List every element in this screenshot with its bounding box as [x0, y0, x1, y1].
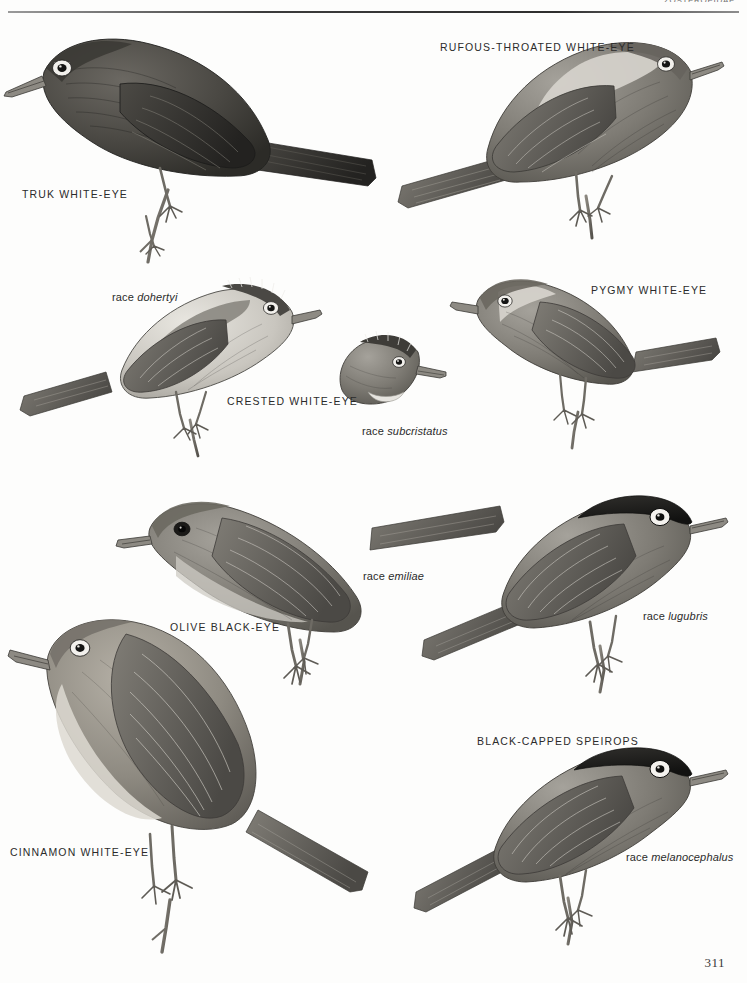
race-prefix: race	[362, 425, 387, 437]
label-pygmy-white-eye: PYGMY WHITE-EYE	[591, 284, 707, 296]
race-name: subcristatus	[387, 425, 448, 437]
race-prefix: race	[626, 851, 651, 863]
label-black-capped-speirops: BLACK-CAPPED SPEIROPS	[477, 735, 639, 747]
race-prefix: race	[363, 570, 388, 582]
bird-rufous-throated-white-eye	[398, 43, 724, 238]
race-name: melanocephalus	[651, 851, 733, 863]
race-prefix: race	[643, 610, 668, 622]
label-olive-black-eye: OLIVE BLACK-EYE	[170, 621, 280, 633]
race-prefix: race	[112, 291, 137, 303]
label-race-dohertyi: race dohertyi	[112, 291, 178, 303]
bird-black-capped-speirops-melanocephalus	[414, 748, 728, 944]
race-name: emiliae	[388, 570, 424, 582]
label-truk-white-eye: TRUK WHITE-EYE	[22, 188, 128, 200]
bird-crested-white-eye-dohertyi	[20, 277, 322, 456]
label-crested-white-eye: CRESTED WHITE-EYE	[227, 395, 358, 407]
bird-truk-white-eye	[4, 39, 376, 262]
bird-crested-white-eye-subcristatus-head	[340, 331, 446, 404]
label-cinnamon-white-eye: CINNAMON WHITE-EYE	[10, 846, 149, 858]
bird-cinnamon-white-eye	[8, 620, 368, 952]
label-race-lugubris: race lugubris	[643, 610, 708, 622]
plate-artwork	[0, 0, 747, 983]
label-race-melanocephalus: race melanocephalus	[626, 851, 733, 863]
race-name: lugubris	[668, 610, 708, 622]
label-rufous-throated-white-eye: RUFOUS-THROATED WHITE-EYE	[440, 41, 635, 53]
race-name: dohertyi	[137, 291, 177, 303]
page-number: 311	[704, 955, 725, 971]
label-race-emiliae: race emiliae	[363, 570, 424, 582]
illustration-plate: ZOSTEROPIDAE	[0, 0, 747, 983]
label-race-subcristatus: race subcristatus	[362, 425, 448, 437]
bird-pygmy-white-eye	[450, 279, 720, 448]
